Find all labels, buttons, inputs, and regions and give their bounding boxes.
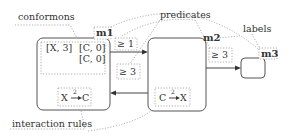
- module-label-m3: m3: [261, 48, 279, 59]
- m2-rule-from: C: [159, 92, 166, 103]
- annotation-conformons: conformons: [18, 11, 75, 22]
- module-label-m1: m1: [96, 27, 114, 38]
- module-m3-box: [241, 58, 265, 78]
- module-label-m2: m2: [203, 32, 221, 43]
- predicate-m2-m3: ≥ 3: [211, 49, 228, 60]
- p-system-diagram: [X, 3] [C, 0] [C, 0] X 2 C m1 C 2 X m2 m…: [0, 0, 291, 137]
- edge-m2-m3-arrowhead-icon: [235, 66, 241, 71]
- interaction-rules-leader-2: [88, 108, 155, 131]
- annotation-predicates: predicates: [160, 9, 211, 20]
- conformons-leader: [15, 25, 77, 38]
- m1-rule-weight: 2: [73, 88, 77, 95]
- edge-m2-m1-arrowhead-icon: [110, 91, 116, 96]
- annotation-labels: labels: [243, 23, 271, 34]
- m1-rule-from: X: [61, 92, 68, 103]
- m1-conformon-1: [X, 3]: [46, 42, 72, 53]
- edge-m1-m2-arrowhead-icon: [142, 50, 148, 55]
- predicates-leader-1: [122, 19, 195, 36]
- m1-conformon-2: [C, 0]: [79, 42, 105, 53]
- m1-conformon-3: [C, 0]: [79, 53, 105, 64]
- m2-rule-weight: 2: [171, 88, 175, 95]
- m1-rule-to: C: [82, 92, 89, 103]
- predicate-m1-m2: ≥ 1: [117, 38, 134, 49]
- m2-rule-to: X: [180, 92, 187, 103]
- predicate-m2-m1: ≥ 3: [119, 66, 136, 77]
- annotation-interaction-rules: interaction rules: [12, 118, 92, 129]
